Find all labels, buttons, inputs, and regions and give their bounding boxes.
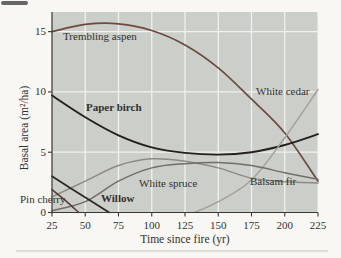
x-tick-label-25: 25 bbox=[47, 219, 59, 231]
x-tick-label-50: 50 bbox=[80, 219, 92, 231]
y-tick-label-10: 10 bbox=[35, 85, 47, 97]
label-pin-cherry: Pin cherry bbox=[20, 193, 66, 205]
succession-chart: 255075100125150175200225051015 Trembling… bbox=[0, 0, 341, 258]
scan-artifact-top bbox=[1, 1, 28, 5]
y-tick-label-0: 0 bbox=[41, 206, 47, 218]
x-tick-label-75: 75 bbox=[113, 219, 125, 231]
x-axis-title: Time since fire (yr) bbox=[140, 233, 229, 246]
y-axis-title: Basal area (m²/ha) bbox=[18, 86, 31, 171]
figure-root: 255075100125150175200225051015 Trembling… bbox=[0, 0, 341, 258]
label-balsam-fir: Balsam fir bbox=[250, 175, 296, 187]
x-tick-label-100: 100 bbox=[144, 219, 161, 231]
x-tick-label-175: 175 bbox=[243, 219, 260, 231]
label-trembling-aspen: Trembling aspen bbox=[63, 30, 137, 42]
y-tick-label-15: 15 bbox=[35, 25, 47, 37]
x-tick-label-200: 200 bbox=[277, 219, 294, 231]
scan-artifact-bottom bbox=[16, 250, 328, 252]
label-white-cedar: White cedar bbox=[256, 85, 310, 97]
label-willow: Willow bbox=[101, 192, 134, 204]
x-tick-label-150: 150 bbox=[210, 219, 227, 231]
x-tick-label-125: 125 bbox=[177, 219, 194, 231]
label-paper-birch: Paper birch bbox=[86, 101, 142, 113]
label-white-spruce: White spruce bbox=[139, 177, 197, 189]
y-tick-label-5: 5 bbox=[41, 146, 47, 158]
x-tick-label-225: 225 bbox=[310, 219, 327, 231]
